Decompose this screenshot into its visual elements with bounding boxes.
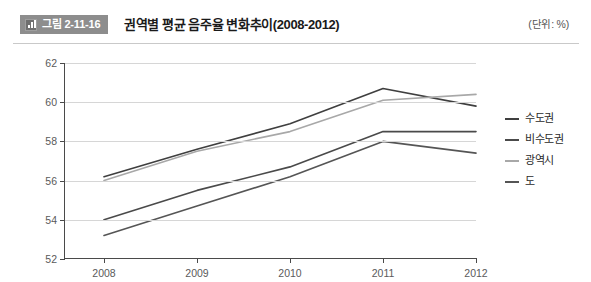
gridline [64,220,476,221]
x-axis-label: 2009 [185,268,208,279]
y-axis-tick [60,181,65,182]
x-axis-label: 2010 [278,268,301,279]
legend-label: 광역시 [525,155,554,166]
x-axis-tick [476,258,477,263]
x-axis-tick [104,258,105,263]
x-axis-tick [197,258,198,263]
gridline [64,63,476,64]
gridline [64,141,476,142]
chart-plot-area: 52545658606220082009201020112012 [64,63,476,259]
y-axis-tick [60,220,65,221]
y-axis-label: 58 [45,136,57,147]
y-axis-label: 60 [45,97,57,108]
bar-chart-icon [25,19,37,31]
chart-lines [64,63,476,259]
figure-number-badge: 그림 2-11-16 [20,15,108,34]
chart-legend: 수도권비수도권광역시도 [505,108,585,192]
legend-swatch-icon [505,139,519,141]
legend-swatch-icon [505,160,519,162]
y-axis-tick [60,141,65,142]
figure-header: 그림 2-11-16 권역별 평균 음주율 변화추이(2008-2012) (단… [0,0,591,42]
chart-series-line [104,132,476,220]
legend-label: 비수도권 [525,134,564,145]
figure-number-label: 그림 2-11-16 [42,19,100,30]
gridline [64,181,476,182]
legend-item[interactable]: 비수도권 [505,129,585,150]
x-axis-tick [290,258,291,263]
x-axis-tick [383,258,384,263]
y-axis-tick [60,102,65,103]
chart-series-line [104,141,476,235]
page-title: 권역별 평균 음주율 변화추이(2008-2012) [124,15,339,34]
y-axis-tick [60,259,65,260]
legend-swatch-icon [505,181,519,183]
gridline [64,102,476,103]
y-axis-label: 54 [45,215,57,226]
header-divider [13,43,579,44]
legend-item[interactable]: 광역시 [505,150,585,171]
legend-label: 수도권 [525,113,554,124]
unit-label: (단위: %) [528,15,569,34]
legend-swatch-icon [505,118,519,120]
x-axis-label: 2008 [92,268,115,279]
legend-label: 도 [525,176,535,187]
y-axis-label: 56 [45,175,57,186]
y-axis-tick [60,63,65,64]
y-axis-label: 52 [45,254,57,265]
x-axis-label: 2012 [464,268,487,279]
legend-item[interactable]: 수도권 [505,108,585,129]
y-axis-label: 62 [45,58,57,69]
legend-item[interactable]: 도 [505,171,585,192]
figure-container: 그림 2-11-16 권역별 평균 음주율 변화추이(2008-2012) (단… [0,0,591,282]
x-axis-label: 2011 [372,268,395,279]
